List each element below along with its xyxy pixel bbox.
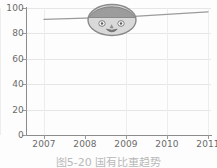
y-tick-label-20: 20 [2,106,24,115]
doodle-right-pupil [120,22,123,25]
gridline-horizontal-40 [27,84,211,85]
y-tick-label-100: 100 [2,4,24,13]
x-axis-line [26,135,212,136]
chart-screenshot: 100 80 60 40 20 0 2007 2008 2009 2010 20… [0,0,217,168]
x-tick-label-2007: 2007 [27,140,61,149]
smiley-face-doodle [86,2,138,38]
doodle-left-pupil [101,22,104,25]
gridline-horizontal-60 [27,59,211,60]
x-tick-label-2008: 2008 [68,140,102,149]
gridline-horizontal-20 [27,110,211,111]
gridline-vertical-2010 [167,8,168,135]
y-tick-label-60: 60 [2,55,24,64]
line-chart: 100 80 60 40 20 0 2007 2008 2009 2010 20… [0,0,217,168]
x-tick-label-2010: 2010 [150,140,184,149]
x-tick-label-2009: 2009 [109,140,143,149]
gridline-vertical-2011 [208,8,209,135]
x-tick-label-2011: 2011 [191,140,217,149]
y-tick-label-80: 80 [2,29,24,38]
y-tick-label-40: 40 [2,80,24,89]
y-tick-label-0: 0 [2,131,24,140]
gridline-vertical-2008 [0,8,1,135]
gridline-vertical-2007 [44,8,45,135]
y-axis-line [26,7,27,136]
figure-caption: 图5-20 国有比重趋势 [0,157,217,168]
